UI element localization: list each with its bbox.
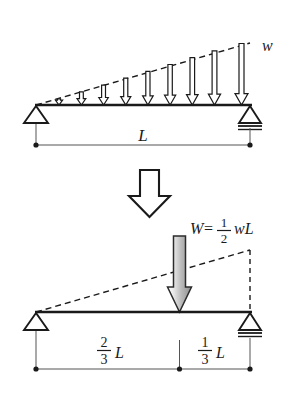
resultant-fraction-denominator: 2 <box>221 231 228 246</box>
span-label-top: L <box>137 126 147 145</box>
load-intensity-label: w <box>262 37 273 54</box>
engineering-diagram: w L W = 1 <box>0 0 300 407</box>
dimension-dot-mid-bottom <box>177 366 182 371</box>
left-dim-numerator: 2 <box>101 335 108 350</box>
dimension-dot-left-top <box>33 142 38 147</box>
resultant-equals: = <box>204 220 213 237</box>
right-dim-denominator: 3 <box>202 352 209 367</box>
beam-load-diagram: w L W = 1 <box>0 0 300 407</box>
left-dim-symbol: L <box>114 344 124 361</box>
left-dim-denominator: 3 <box>101 352 108 367</box>
resultant-trailing: wL <box>234 220 254 237</box>
resultant-lhs: W <box>190 220 205 237</box>
right-dim-numerator: 1 <box>202 335 209 350</box>
resultant-fraction-numerator: 1 <box>221 215 228 230</box>
dimension-dot-right-bottom <box>247 366 252 371</box>
right-dim-symbol: L <box>215 344 225 361</box>
dimension-dot-left-bottom <box>33 366 38 371</box>
dimension-dot-right-top <box>247 142 252 147</box>
